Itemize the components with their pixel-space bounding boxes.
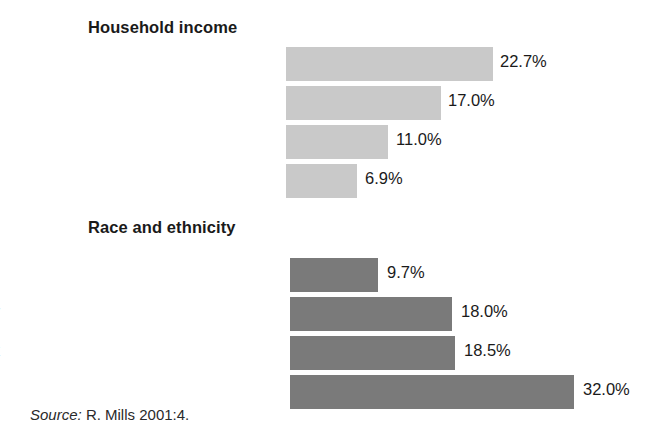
bar-value-label: 18.5%: [464, 333, 511, 367]
bar-segment: [290, 375, 574, 409]
source-citation: R. Mills 2001:4.: [86, 406, 189, 423]
figure-root: Household income Less than $25,000 22.7%…: [0, 0, 667, 436]
bar-value-label: 18.0%: [461, 294, 508, 328]
bar-segment: [290, 258, 378, 292]
source-note: Source: R. Mills 2001:4.: [30, 406, 189, 423]
chart-title-race-and-ethnicity: Race and ethnicity: [88, 218, 236, 237]
bar-value-label: 17.0%: [448, 83, 495, 117]
bar-segment: [290, 297, 452, 331]
source-prefix: Source:: [30, 406, 82, 423]
bar-value-label: 32.0%: [583, 372, 630, 406]
bar-value-label: 9.7%: [387, 255, 425, 289]
bar-value-label: 6.9%: [365, 161, 403, 195]
bar-value-label: 22.7%: [500, 44, 547, 78]
bar-segment: [290, 336, 455, 370]
chart-title-household-income: Household income: [88, 18, 237, 37]
bar-segment: [286, 164, 357, 198]
bar-value-label: 11.0%: [396, 122, 442, 156]
bar-segment: [286, 47, 493, 81]
bar-segment: [286, 125, 388, 159]
bar-segment: [286, 86, 441, 120]
